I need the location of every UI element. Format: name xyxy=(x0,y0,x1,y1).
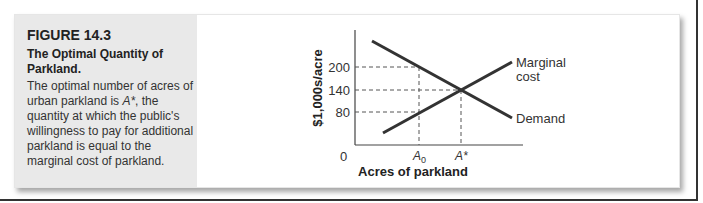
marginal-cost-line xyxy=(383,62,512,133)
demand-label: Demand xyxy=(516,111,565,126)
x-tick-astar: A* xyxy=(454,149,468,163)
demand-line xyxy=(372,41,512,118)
y-tick-200: 200 xyxy=(328,60,350,75)
mc-label-line1: Marginal xyxy=(516,55,566,70)
mc-label-line2: cost xyxy=(516,69,540,84)
y-tick-80: 80 xyxy=(336,105,350,120)
chart: 200 140 80 0 A0 A* Acres of parkland $1,… xyxy=(0,0,703,203)
y-tick-140: 140 xyxy=(328,83,350,98)
x-axis-title: Acres of parkland xyxy=(358,164,468,179)
y-axis-title: $1,000s/acre xyxy=(310,49,325,126)
origin-label: 0 xyxy=(340,149,347,164)
x-tick-a0: A0 xyxy=(412,149,426,165)
